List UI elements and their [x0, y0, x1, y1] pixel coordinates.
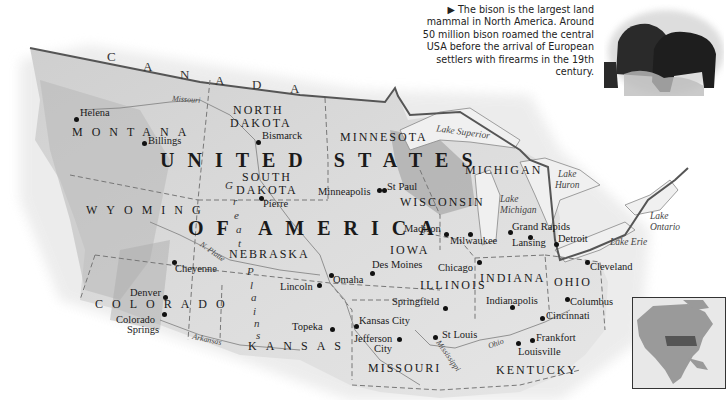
label-st-paul: St Paul [387, 182, 417, 193]
label-helena: Helena [80, 108, 110, 119]
label-great-plains-s: s [256, 330, 260, 341]
label-bismarck: Bismarck [262, 131, 302, 142]
label-milwaukee: Milwaukee [450, 236, 497, 247]
label-great-plains-a2: a [251, 292, 257, 303]
label-iowa: IOWA [390, 244, 429, 256]
city-dot-indianapolis [510, 305, 515, 310]
label-louisville: Louisville [518, 347, 561, 358]
label-topeka: Topeka [292, 322, 323, 333]
label-lake-michigan-2: Michigan [500, 206, 536, 216]
label-chicago: Chicago [438, 263, 473, 274]
city-dot-topeka [330, 327, 335, 332]
city-dot-st-louis [433, 335, 438, 340]
label-colorado-springs-2: Springs [127, 325, 159, 336]
label-lake-erie: Lake Erie [610, 238, 647, 248]
label-cleveland: Cleveland [590, 262, 633, 273]
city-dot-jefferson-city [397, 337, 402, 342]
city-dot-des-moines [370, 271, 375, 276]
label-great-plains-r: r [233, 196, 237, 207]
label-lake-huron-1: Lake [558, 170, 576, 180]
label-cincinnati: Cincinnati [546, 311, 590, 322]
label-columbus: Columbus [570, 297, 613, 308]
city-dot-lincoln [317, 283, 322, 288]
label-south-dakota-1: SOUTH [242, 171, 292, 183]
label-south-dakota-2: DAKOTA [236, 184, 298, 196]
label-omaha: Omaha [333, 275, 363, 286]
label-springfield: Springfield [392, 297, 439, 308]
label-lincoln: Lincoln [280, 282, 313, 293]
label-great-plains-i: i [253, 306, 256, 317]
label-great-plains-l: l [250, 280, 253, 291]
label-great-plains-a: a [236, 224, 242, 235]
locator-inset-map [632, 297, 726, 389]
label-united-states: UNITED STATES [160, 150, 486, 170]
label-lansing: Lansing [512, 238, 546, 249]
label-wyoming: WYOMING [86, 204, 210, 216]
label-great-plains-t: t [238, 238, 241, 249]
city-dot-billings [142, 141, 147, 146]
label-canada-a: A [143, 60, 152, 73]
label-st-louis: St Louis [442, 330, 477, 341]
bison-caption: ▶ The bison is the largest land mammal i… [420, 4, 594, 78]
label-great-plains-n: n [254, 318, 260, 329]
north-america-silhouette [633, 298, 725, 388]
city-dot-chicago [477, 260, 482, 265]
label-jefferson-city-2: City [374, 344, 392, 355]
city-dot-frankfort [530, 338, 535, 343]
label-minneapolis: Minneapolis [318, 187, 371, 198]
label-denver: Denver [130, 288, 161, 299]
city-dot-denver [163, 295, 168, 300]
city-dot-springfield [443, 306, 448, 311]
label-grand-rapids: Grand Rapids [512, 222, 570, 233]
city-dot-cincinnati [540, 316, 545, 321]
label-detroit: Detroit [558, 234, 588, 245]
label-north-dakota-2: DAKOTA [230, 117, 292, 129]
label-canada-a2: A [215, 74, 224, 87]
label-minnesota: MINNESOTA [340, 131, 428, 143]
label-kansas-city: Kansas City [359, 316, 410, 327]
bison-photo [604, 4, 724, 96]
label-indiana: INDIANA [480, 272, 545, 284]
label-canada-a3: A [290, 82, 299, 95]
triangle-pointer-icon: ▶ [448, 4, 455, 15]
label-canada-d: D [252, 78, 261, 91]
label-nebraska: NEBRASKA [229, 248, 310, 260]
label-cheyenne: Cheyenne [175, 264, 217, 275]
label-madison: Madison [404, 224, 441, 235]
city-dot-helena [74, 117, 79, 122]
label-kentucky: KENTUCKY [496, 364, 578, 376]
city-dot-madison [444, 232, 449, 237]
label-lake-huron-2: Huron [555, 181, 579, 191]
highlighted-region [665, 336, 697, 346]
label-canada-n: N [180, 68, 189, 81]
label-billings: Billings [148, 136, 181, 147]
label-des-moines: Des Moines [372, 260, 422, 271]
label-canada-c: C [107, 50, 116, 63]
city-dot-colorado-springs [162, 312, 167, 317]
label-illinois: ILLINOIS [420, 279, 487, 291]
label-kansas: KANSAS [248, 340, 350, 352]
label-frankfort: Frankfort [536, 333, 576, 344]
label-pierre: Pierre [263, 199, 288, 210]
label-great-plains-p: P [247, 266, 254, 277]
label-ohio: OHIO [554, 276, 592, 288]
city-dot-bismarck [256, 140, 261, 145]
label-missouri: MISSOURI [368, 362, 441, 374]
label-great-plains-e: e [234, 210, 239, 221]
label-great-plains-g: G [225, 180, 233, 191]
label-north-dakota-1: NORTH [233, 104, 284, 116]
label-lake-michigan-1: Lake [500, 195, 518, 205]
label-lake-ontario-2: Ontario [650, 223, 680, 233]
label-wisconsin: WISCONSIN [400, 196, 485, 208]
label-lake-ontario-1: Lake [650, 212, 668, 222]
label-michigan: MICHIGAN [465, 164, 542, 176]
